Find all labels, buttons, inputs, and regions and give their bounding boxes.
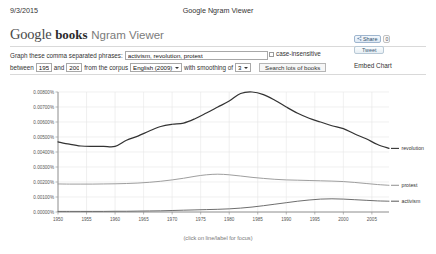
chart-ytick-label: 0.00300%	[33, 165, 54, 170]
corpus-select[interactable]: English (2009)	[130, 63, 182, 72]
case-insensitive-checkbox[interactable]	[269, 52, 274, 57]
chart-xtick-label: 1985	[253, 217, 264, 222]
chart-xtick-label: 1965	[138, 217, 149, 222]
embed-chart-link[interactable]: Embed Chart	[354, 62, 426, 69]
chart-xtick-label: 1970	[167, 217, 178, 222]
books-wordmark: books	[55, 27, 88, 42]
chart-xtick-label: 2000	[338, 217, 349, 222]
chart-caption: (click on line/label for focus)	[10, 235, 426, 241]
legend-label-protest[interactable]: protest	[402, 182, 418, 188]
smoothing-label: with smoothing of	[184, 63, 233, 72]
ngram-chart[interactable]: 0.00800%0.00700%0.00600%0.00500%0.00400%…	[10, 84, 426, 247]
chart-ytick-label: 0.00500%	[33, 135, 54, 140]
chart-ytick-label: 0.00200%	[33, 180, 54, 185]
chart-xtick-label: 1995	[310, 217, 321, 222]
and-label: and	[54, 63, 65, 72]
corpus-label: from the corpus	[84, 63, 128, 72]
chart-xtick-label: 1990	[281, 217, 292, 222]
share-row: Share 0	[354, 29, 426, 38]
chart-ytick-label: 0.00600%	[33, 120, 54, 125]
phrases-row: Graph these comma separated phrases:	[10, 50, 268, 60]
chart-ytick-label: 0.00400%	[33, 150, 54, 155]
chart-line-protest[interactable]	[58, 174, 389, 185]
chart-ytick-label: 0.00800%	[33, 90, 54, 95]
chart-xtick-label: 1975	[196, 217, 207, 222]
chart-line-activism[interactable]	[58, 199, 389, 212]
smoothing-select[interactable]: 3	[235, 63, 251, 72]
ngram-app: Google books Ngram Viewer Graph these co…	[10, 27, 426, 75]
search-button[interactable]: Search lots of books	[259, 63, 326, 72]
start-year-input[interactable]	[36, 63, 52, 72]
ngram-viewer-wordmark: Ngram Viewer	[91, 29, 164, 41]
chart-line-revolution[interactable]	[58, 92, 389, 148]
chevron-down-icon	[244, 67, 248, 69]
chart-xtick-label: 1950	[53, 217, 64, 222]
end-year-input[interactable]	[66, 63, 82, 72]
phrases-input[interactable]	[125, 51, 268, 60]
phrases-label: Graph these comma separated phrases:	[10, 51, 123, 60]
case-insensitive-control[interactable]: case-insensitive	[269, 50, 321, 57]
share-count-badge: 0	[383, 35, 390, 43]
legend-label-activism[interactable]: activism	[402, 198, 421, 204]
print-header: 9/3/2015 Google Ngram Viewer	[0, 6, 436, 18]
chart-svg[interactable]: 0.00800%0.00700%0.00600%0.00500%0.00400%…	[10, 84, 426, 234]
google-wordmark: Google	[10, 26, 52, 42]
chart-ytick-label: 0.00100%	[33, 195, 54, 200]
tweet-button[interactable]: Tweet	[354, 46, 384, 54]
smoothing-select-value: 3	[238, 64, 241, 71]
legend-label-revolution[interactable]: revolution	[402, 145, 425, 151]
corpus-select-value: English (2009)	[133, 64, 172, 71]
print-title: Google Ngram Viewer	[0, 6, 436, 15]
range-row: betweenandfrom the corpusEnglish (2009)w…	[10, 62, 326, 72]
chart-xtick-label: 2005	[367, 217, 378, 222]
chart-ytick-label: 0.00000%	[33, 210, 54, 215]
chart-xtick-label: 1955	[81, 217, 92, 222]
between-label: between	[10, 63, 34, 72]
case-insensitive-label: case-insensitive	[276, 50, 321, 57]
chart-ytick-label: 0.00700%	[33, 105, 54, 110]
chart-xtick-label: 1980	[224, 217, 235, 222]
share-area: Share 0 Tweet Embed Chart	[354, 29, 426, 69]
chevron-down-icon	[175, 67, 179, 69]
chart-xtick-label: 1960	[110, 217, 121, 222]
